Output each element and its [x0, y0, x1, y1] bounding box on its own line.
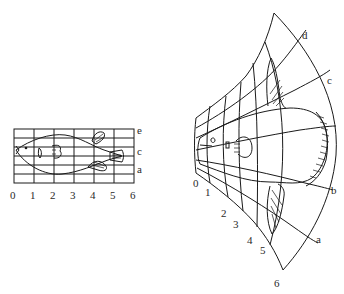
- right-y-labels: d c b a: [302, 29, 337, 245]
- x-label-4: 4: [247, 234, 253, 246]
- y-label-c: c: [137, 145, 142, 157]
- x-label-6: 6: [130, 189, 136, 201]
- y-label-d: d: [302, 29, 308, 41]
- y-label-c: c: [327, 74, 332, 86]
- y-label-a: a: [137, 163, 142, 175]
- left-y-labels: e c a: [137, 124, 142, 175]
- y-label-e: e: [137, 124, 142, 136]
- x-label-2: 2: [50, 189, 56, 201]
- left-x-labels: 0 1 2 3 4 5 6: [10, 189, 136, 201]
- right-x-labels: 0 1 2 3 4 5 6: [193, 177, 280, 289]
- x-label-0: 0: [193, 177, 199, 189]
- x-label-5: 5: [260, 244, 266, 256]
- x-label-6: 6: [274, 277, 280, 289]
- x-label-1: 1: [205, 186, 211, 198]
- right-grid: [195, 13, 337, 270]
- fish-transformation-diagram: 0 1 2 3 4 5 6 e c a: [0, 0, 344, 294]
- x-label-2: 2: [221, 207, 227, 219]
- x-label-4: 4: [90, 189, 96, 201]
- x-label-1: 1: [30, 189, 36, 201]
- y-label-a: a: [316, 233, 321, 245]
- x-label-3: 3: [70, 189, 76, 201]
- x-label-3: 3: [233, 218, 239, 230]
- y-label-b: b: [331, 184, 337, 196]
- x-label-5: 5: [110, 189, 116, 201]
- x-label-0: 0: [10, 189, 16, 201]
